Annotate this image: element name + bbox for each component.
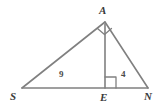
segment-length-label-SE: 9 <box>59 70 64 79</box>
vertex-label-S: S <box>10 91 16 102</box>
right-angle-mark-E <box>105 77 116 88</box>
segment-length-label-EN: 4 <box>121 70 126 79</box>
vertex-label-N: N <box>144 91 152 102</box>
vertex-label-A: A <box>99 5 106 16</box>
geometry-canvas <box>0 0 161 107</box>
vertex-label-E: E <box>100 92 107 103</box>
segment-AN <box>105 22 148 88</box>
geometry-figure: A S E N 9 4 <box>0 0 161 107</box>
